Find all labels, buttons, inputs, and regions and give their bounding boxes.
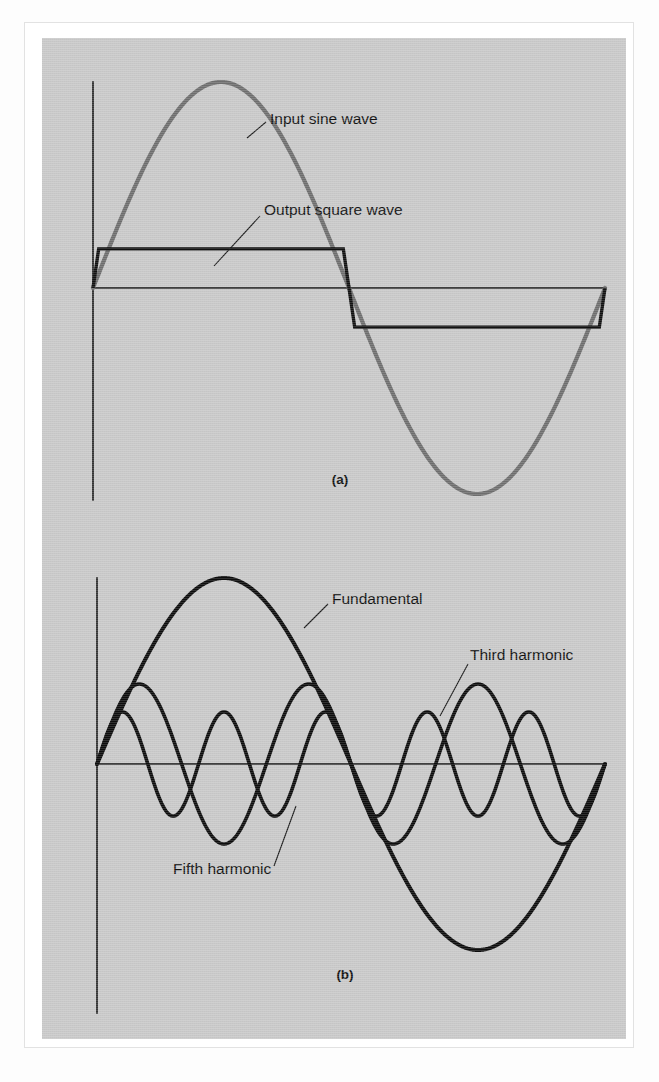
figure-root: Input sine wave Output square wave (a) F…	[0, 0, 659, 1082]
panel-b-caption: (b)	[336, 967, 353, 982]
input-sine-wave-label: Input sine wave	[270, 110, 378, 127]
third-harmonic-leader-line	[440, 664, 468, 716]
fundamental-label: Fundamental	[332, 590, 422, 607]
input-sine-wave-leader-line	[247, 122, 266, 138]
output-square-wave-label: Output square wave	[264, 201, 403, 218]
output-square-wave-leader-line	[214, 216, 260, 266]
third-harmonic-label: Third harmonic	[470, 646, 574, 663]
panel-a-caption: (a)	[332, 472, 349, 487]
fundamental-leader-line	[304, 604, 328, 628]
fifth-harmonic-label: Fifth harmonic	[173, 860, 271, 877]
panel-a: Input sine wave Output square wave (a)	[93, 82, 605, 500]
panel-b: Fundamental Third harmonic Fifth harmoni…	[97, 578, 605, 1013]
illustration-panel: Input sine wave Output square wave (a) F…	[42, 38, 626, 1039]
